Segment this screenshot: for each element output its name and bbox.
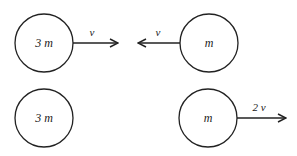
velocity-label: 2 v [252, 101, 265, 113]
before-left-velocity-arrow: v [73, 26, 118, 43]
velocity-label: v [156, 26, 161, 38]
mass-label: 3 m [34, 36, 53, 50]
collision-diagram: 3 m v m v 3 m m 2 v [0, 0, 297, 156]
after-right-ball: m [179, 89, 237, 147]
mass-label: m [205, 36, 214, 50]
before-right-velocity-arrow: v [138, 26, 180, 43]
before-right-ball: m [180, 14, 238, 72]
after-left-ball: 3 m [15, 89, 73, 147]
after-right-velocity-arrow: 2 v [237, 101, 286, 118]
before-left-ball: 3 m [15, 14, 73, 72]
mass-label: m [204, 111, 213, 125]
velocity-label: v [90, 26, 95, 38]
mass-label: 3 m [34, 111, 53, 125]
